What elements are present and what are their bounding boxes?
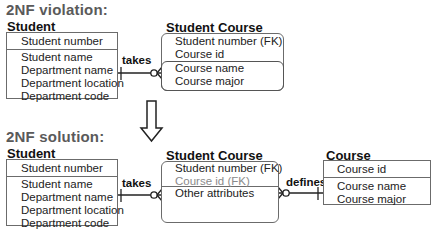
student-course-keys: Student number (FK) Course id (FK) bbox=[162, 162, 278, 187]
course-attribute: Course name bbox=[337, 180, 430, 193]
student-attribute: Student name bbox=[21, 51, 117, 64]
takes-connector-solution bbox=[117, 189, 162, 202]
student-course-key: Student number (FK) bbox=[175, 35, 283, 48]
student-entity-box: Student number Student name Department n… bbox=[6, 32, 118, 99]
violating-attributes-group: Course name Course major bbox=[161, 61, 284, 91]
student-attribute: Department location bbox=[21, 204, 117, 217]
student-course-key: Student number (FK) bbox=[175, 162, 278, 175]
relationship-label-takes: takes bbox=[122, 177, 151, 189]
student-attribute: Department name bbox=[21, 191, 117, 204]
course-entity-box: Course id Course name Course major bbox=[323, 160, 431, 205]
student-course-attribute: Course name bbox=[175, 62, 283, 75]
student-attribute: Student name bbox=[21, 178, 117, 191]
student-course-attribute: Other attributes bbox=[175, 187, 278, 200]
solution-title: 2NF solution: bbox=[6, 128, 104, 145]
defines-connector bbox=[278, 187, 323, 200]
student-entity-box: Student number Student name Department n… bbox=[6, 159, 118, 226]
student-attribute: Department code bbox=[21, 217, 117, 230]
course-attribute: Course major bbox=[337, 193, 430, 206]
course-key: Course id bbox=[324, 161, 430, 178]
violation-title: 2NF violation: bbox=[6, 1, 108, 18]
student-course-attribute: Course major bbox=[175, 75, 283, 88]
relationship-label-takes: takes bbox=[122, 54, 151, 66]
relationship-label-defines: defines bbox=[286, 176, 326, 188]
student-attribute: Department code bbox=[21, 90, 117, 103]
student-attribute: Department name bbox=[21, 64, 117, 77]
student-key: Student number bbox=[7, 160, 117, 177]
student-course-entity-box: Student number (FK) Course id (FK) Other… bbox=[161, 161, 279, 223]
student-course-entity-box: Student number (FK) Course id Course nam… bbox=[161, 33, 284, 91]
down-arrow-icon bbox=[141, 101, 162, 141]
student-course-key: Course id bbox=[175, 48, 283, 61]
student-attribute: Department location bbox=[21, 77, 117, 90]
student-key: Student number bbox=[7, 33, 117, 50]
